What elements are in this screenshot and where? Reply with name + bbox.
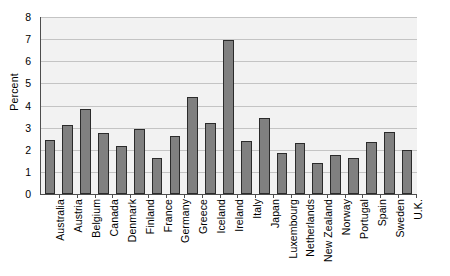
bars-group (41, 17, 416, 194)
x-axis-tick (184, 194, 185, 198)
x-axis-label: Luxembourg (287, 199, 299, 258)
x-axis-tick (273, 194, 274, 198)
x-axis-tick (59, 194, 60, 198)
x-axis-tick (416, 194, 417, 198)
x-axis-label: Ireland (233, 199, 245, 232)
x-axis-label: Finland (144, 199, 156, 234)
x-axis-tick (291, 194, 292, 198)
x-axis-ticks (41, 194, 416, 198)
x-axis-tick (255, 194, 256, 198)
bar (259, 118, 270, 194)
x-axis-tick (77, 194, 78, 198)
x-axis-label: Greece (197, 199, 209, 234)
x-axis-label: Belgium (90, 199, 102, 238)
y-axis-tick-label: 0 (11, 188, 31, 200)
x-axis-tick (112, 194, 113, 198)
x-axis-tick (380, 194, 381, 198)
bar (277, 153, 288, 194)
x-axis-tick (237, 194, 238, 198)
y-axis-tick-label: 7 (11, 33, 31, 45)
x-axis-label: Norway (340, 199, 352, 235)
x-axis-tick (148, 194, 149, 198)
x-axis-tick (220, 194, 221, 198)
x-axis-tick (202, 194, 203, 198)
y-axis-tick-label: 3 (11, 122, 31, 134)
x-axis-category-labels: AustraliaAustriaBelgiumCanadaDenmarkFinl… (41, 199, 416, 276)
y-axis-tick-label: 8 (11, 11, 31, 23)
x-axis-tick (398, 194, 399, 198)
x-axis-label: Netherlands (304, 199, 316, 257)
y-axis-tick-label: 2 (11, 144, 31, 156)
x-axis-label: Japan (269, 199, 281, 228)
bar (170, 136, 181, 194)
bar (384, 132, 395, 194)
y-axis-title: Percent (8, 57, 20, 127)
bar (45, 140, 56, 194)
x-axis-label: New Zealand (322, 199, 334, 262)
y-axis-tick-label: 6 (11, 55, 31, 67)
bar (116, 146, 127, 194)
bar (205, 123, 216, 194)
bar (152, 158, 163, 195)
bar (402, 150, 413, 194)
x-axis-tick (362, 194, 363, 198)
x-axis-label: Denmark (126, 199, 138, 242)
bar (312, 163, 323, 194)
bar-chart-figure: Percent 012345678 AustraliaAustriaBelgiu… (0, 0, 450, 276)
x-axis-label: Sweden (394, 199, 406, 238)
x-axis-label: Austria (72, 199, 84, 232)
x-axis-label: Germany (179, 199, 191, 243)
bar (98, 133, 109, 194)
x-axis-label: Iceland (215, 199, 227, 234)
x-axis-tick (95, 194, 96, 198)
x-axis-tick (309, 194, 310, 198)
bar (187, 97, 198, 194)
bar (241, 141, 252, 194)
bar (348, 158, 359, 195)
y-axis-tick-label: 1 (11, 166, 31, 178)
x-axis-label: France (162, 199, 174, 232)
x-axis-label: Australia (54, 199, 66, 241)
bar (134, 129, 145, 194)
bar (295, 143, 306, 194)
x-axis-label: Canada (108, 199, 120, 236)
x-axis-label: Portugal (358, 199, 370, 239)
y-axis-tick-label: 4 (11, 100, 31, 112)
bar (62, 125, 73, 194)
x-axis-label: Italy (251, 199, 263, 219)
x-axis-tick (130, 194, 131, 198)
x-axis-tick (345, 194, 346, 198)
x-axis-label: Spain (376, 199, 388, 226)
bar (366, 142, 377, 194)
bar (330, 155, 341, 194)
bar (223, 40, 234, 194)
y-axis-tick-label: 5 (11, 77, 31, 89)
x-axis-label: U.K. (412, 199, 424, 220)
x-axis-tick (327, 194, 328, 198)
bar (80, 109, 91, 194)
x-axis-tick (166, 194, 167, 198)
